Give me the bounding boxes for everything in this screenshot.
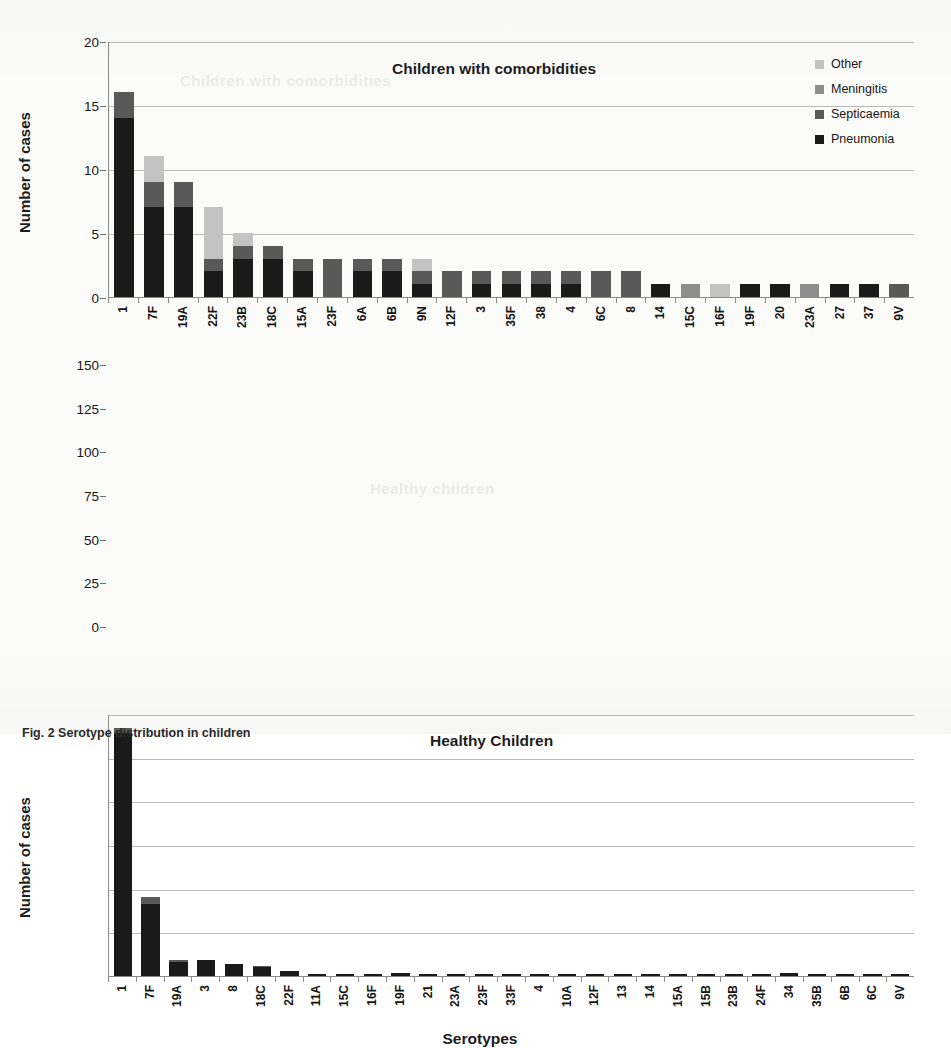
stacked-bar[interactable]	[651, 284, 671, 297]
bar-slot[interactable]	[886, 715, 914, 976]
bar-slot[interactable]	[248, 715, 276, 976]
bar-slot[interactable]	[616, 42, 646, 297]
stacked-bar[interactable]	[141, 897, 159, 976]
stacked-bar[interactable]	[530, 974, 548, 976]
stacked-bar[interactable]	[197, 960, 215, 976]
stacked-bar[interactable]	[669, 974, 687, 976]
bar-slot[interactable]	[735, 42, 765, 297]
stacked-bar[interactable]	[502, 974, 520, 976]
stacked-bar[interactable]	[808, 974, 826, 976]
stacked-bar[interactable]	[364, 974, 382, 976]
bar-slot[interactable]	[859, 715, 887, 976]
stacked-bar[interactable]	[293, 259, 313, 297]
bar-slot[interactable]	[525, 715, 553, 976]
bar-slot[interactable]	[387, 715, 415, 976]
bar-slot[interactable]	[467, 42, 497, 297]
stacked-bar[interactable]	[225, 964, 243, 976]
bar-slot[interactable]	[288, 42, 318, 297]
bar-slot[interactable]	[884, 42, 914, 297]
stacked-bar[interactable]	[863, 974, 881, 976]
bar-slot[interactable]	[109, 715, 137, 976]
stacked-bar[interactable]	[561, 271, 581, 297]
stacked-bar[interactable]	[442, 271, 462, 297]
stacked-bar[interactable]	[353, 259, 373, 297]
bar-slot[interactable]	[765, 42, 795, 297]
bar-slot[interactable]	[198, 42, 228, 297]
stacked-bar[interactable]	[280, 971, 298, 976]
stacked-bar[interactable]	[204, 207, 224, 297]
bar-slot[interactable]	[720, 715, 748, 976]
stacked-bar[interactable]	[586, 974, 604, 976]
bar-slot[interactable]	[348, 42, 378, 297]
stacked-bar[interactable]	[447, 974, 465, 976]
stacked-bar[interactable]	[308, 974, 326, 976]
stacked-bar[interactable]	[472, 271, 492, 297]
bar-slot[interactable]	[748, 715, 776, 976]
bar-slot[interactable]	[803, 715, 831, 976]
stacked-bar[interactable]	[412, 259, 432, 297]
stacked-bar[interactable]	[621, 271, 641, 297]
stacked-bar[interactable]	[419, 974, 437, 976]
bar-slot[interactable]	[831, 715, 859, 976]
bar-slot[interactable]	[609, 715, 637, 976]
bar-slot[interactable]	[556, 42, 586, 297]
bar-slot[interactable]	[220, 715, 248, 976]
bar-slot[interactable]	[854, 42, 884, 297]
stacked-bar[interactable]	[114, 92, 134, 297]
bar-slot[interactable]	[664, 715, 692, 976]
bar-slot[interactable]	[359, 715, 387, 976]
stacked-bar[interactable]	[641, 974, 659, 976]
bar-slot[interactable]	[775, 715, 803, 976]
bar-slot[interactable]	[795, 42, 825, 297]
stacked-bar[interactable]	[114, 728, 132, 976]
stacked-bar[interactable]	[531, 271, 551, 297]
bar-slot[interactable]	[139, 42, 169, 297]
bar-slot[interactable]	[169, 42, 199, 297]
stacked-bar[interactable]	[144, 156, 164, 297]
bar-slot[interactable]	[825, 42, 855, 297]
bar-slot[interactable]	[318, 42, 348, 297]
stacked-bar[interactable]	[780, 973, 798, 976]
bar-slot[interactable]	[192, 715, 220, 976]
stacked-bar[interactable]	[558, 974, 576, 976]
stacked-bar[interactable]	[253, 966, 271, 976]
bar-slot[interactable]	[497, 42, 527, 297]
bar-slot[interactable]	[581, 715, 609, 976]
stacked-bar[interactable]	[382, 259, 402, 297]
bar-slot[interactable]	[526, 42, 556, 297]
bar-slot[interactable]	[637, 715, 665, 976]
bar-slot[interactable]	[498, 715, 526, 976]
stacked-bar[interactable]	[475, 974, 493, 976]
bar-slot[interactable]	[692, 715, 720, 976]
stacked-bar[interactable]	[391, 973, 409, 976]
stacked-bar[interactable]	[800, 284, 820, 297]
stacked-bar[interactable]	[591, 271, 611, 297]
bar-slot[interactable]	[470, 715, 498, 976]
stacked-bar[interactable]	[323, 259, 343, 297]
stacked-bar[interactable]	[891, 974, 909, 976]
bar-slot[interactable]	[586, 42, 616, 297]
stacked-bar[interactable]	[263, 246, 283, 297]
bar-slot[interactable]	[377, 42, 407, 297]
stacked-bar[interactable]	[169, 960, 187, 976]
bar-slot[interactable]	[553, 715, 581, 976]
bar-slot[interactable]	[137, 715, 165, 976]
stacked-bar[interactable]	[614, 974, 632, 976]
stacked-bar[interactable]	[836, 974, 854, 976]
stacked-bar[interactable]	[174, 182, 194, 297]
bar-slot[interactable]	[414, 715, 442, 976]
stacked-bar[interactable]	[859, 284, 879, 297]
stacked-bar[interactable]	[502, 271, 522, 297]
bar-slot[interactable]	[303, 715, 331, 976]
bar-slot[interactable]	[109, 42, 139, 297]
bar-slot[interactable]	[675, 42, 705, 297]
bar-slot[interactable]	[228, 42, 258, 297]
bar-slot[interactable]	[258, 42, 288, 297]
bar-slot[interactable]	[165, 715, 193, 976]
stacked-bar[interactable]	[770, 284, 790, 297]
bar-slot[interactable]	[331, 715, 359, 976]
stacked-bar[interactable]	[830, 284, 850, 297]
stacked-bar[interactable]	[752, 974, 770, 976]
bar-slot[interactable]	[276, 715, 304, 976]
bar-slot[interactable]	[705, 42, 735, 297]
